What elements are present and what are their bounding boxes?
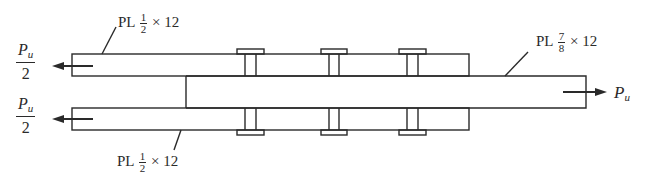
main-plate-leader — [505, 52, 528, 76]
bottom-plate-leader — [174, 130, 181, 150]
force-subscript: u — [28, 48, 34, 60]
force-label-left-bottom: Pu 2 — [16, 96, 35, 136]
force-symbol: P — [614, 83, 624, 102]
force-symbol: P — [18, 95, 28, 112]
fraction: 78 — [558, 31, 566, 54]
bolt-2 — [321, 49, 347, 135]
fraction-denominator: 2 — [140, 24, 148, 35]
fraction-denominator: 8 — [558, 43, 566, 54]
force-subscript: u — [624, 91, 630, 103]
fraction-denominator: 2 — [139, 163, 147, 174]
force-label-right: Pu — [614, 84, 630, 103]
force-label-left-top: Pu 2 — [16, 42, 35, 82]
label-suffix: × 12 — [151, 153, 178, 169]
bottom-plate-label: PL 12 × 12 — [117, 151, 178, 174]
label-prefix: PL — [118, 14, 135, 30]
label-prefix: PL — [117, 153, 134, 169]
bolt-1 — [237, 49, 264, 135]
force-denominator: 2 — [16, 63, 35, 82]
bolt-3 — [399, 49, 426, 135]
force-numerator: Pu — [16, 42, 35, 63]
fraction: 12 — [139, 151, 147, 174]
bottom-splice-plate — [72, 108, 469, 130]
top-plate-leader — [102, 27, 116, 54]
force-numerator: Pu — [16, 96, 35, 117]
force-subscript: u — [28, 102, 34, 114]
fraction: 12 — [140, 12, 148, 35]
main-plate — [186, 76, 586, 108]
label-suffix: × 12 — [152, 14, 179, 30]
main-plate-label: PL 78 × 12 — [536, 31, 597, 54]
top-plate-label: PL 12 × 12 — [118, 12, 179, 35]
label-prefix: PL — [536, 33, 553, 49]
splice-drawing — [0, 0, 646, 182]
top-splice-plate — [72, 54, 469, 76]
label-suffix: × 12 — [570, 33, 597, 49]
force-symbol: P — [18, 41, 28, 58]
force-denominator: 2 — [16, 117, 35, 136]
